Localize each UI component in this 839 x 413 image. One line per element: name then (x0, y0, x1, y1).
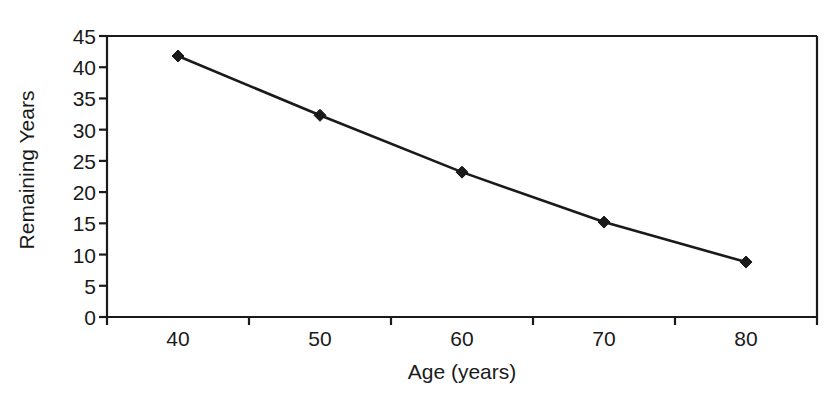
y-axis-ticks (99, 36, 107, 317)
chart-figure: Remaining Years 051015202530354045 40506… (0, 0, 839, 413)
plot-area (0, 0, 839, 413)
x-axis-ticks (107, 317, 817, 325)
data-markers (172, 50, 752, 268)
data-line (178, 56, 746, 262)
